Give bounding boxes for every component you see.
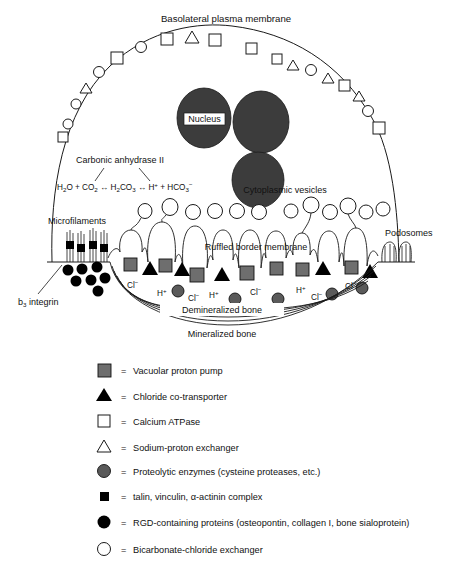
ion-label-h: H+ — [296, 284, 306, 295]
proteolytic-enzyme — [172, 285, 184, 297]
proton-pump — [124, 258, 137, 271]
legend-equals: = — [121, 366, 126, 376]
rgd-protein — [63, 265, 74, 276]
ion-label-cl: Cl− — [127, 279, 139, 290]
proton-pump — [240, 266, 254, 280]
fold-link — [142, 248, 148, 262]
proton-pump — [159, 259, 172, 272]
chloride-transporter — [142, 261, 158, 275]
fold-link — [233, 254, 239, 268]
stalk — [131, 218, 141, 230]
vesicle — [230, 204, 245, 219]
vesicle — [252, 205, 267, 220]
ion-label-cl: Cl− — [188, 292, 200, 303]
ion-labels: Cl− H+ Cl− H+ Cl− H+ Cl− Cl− — [127, 279, 357, 303]
vesicle — [208, 204, 223, 219]
legend-label-rgd-proteins: RGD-containing proteins (osteopontin, co… — [133, 518, 409, 528]
rgd-protein — [71, 276, 82, 287]
stalk — [348, 214, 356, 228]
marker-calcium-atpase — [161, 33, 173, 45]
marker-calcium-atpase — [209, 34, 221, 46]
legend-label-proteolytic-enzymes: Proteolytic enzymes (cysteine proteases,… — [133, 467, 320, 477]
chloride-transporter — [315, 261, 331, 275]
carbonic-anhydrase-equation: H2O + CO2 ↔ H2CO3 ↔ H+ + HCO3− — [57, 181, 193, 194]
demineralized-bone-label: Demineralized bone — [182, 305, 262, 315]
marker-calcium-atpase — [111, 52, 123, 64]
legend-equals: = — [121, 545, 126, 555]
legend-equals: = — [121, 467, 126, 477]
legend-label-chloride-co-transporter: Chloride co-transporter — [133, 392, 227, 402]
basolateral-membrane-outline — [52, 25, 399, 262]
fold-link — [339, 253, 344, 266]
integrin-leader — [38, 265, 62, 294]
vesicle — [376, 202, 390, 216]
vesicle-stalks — [131, 213, 356, 233]
legend-icon-vacuolar-proton-pump — [98, 364, 111, 377]
marker-calcium-atpase — [339, 80, 350, 91]
fold — [120, 230, 143, 252]
legend-icon-chloride-co-transporter — [96, 388, 112, 401]
talin-vinculin-complex — [100, 244, 108, 252]
legend-label-calcium-atpase: Calcium ATPase — [133, 417, 200, 427]
diagram-canvas: Basolateral plasma membrane — [0, 0, 453, 565]
legend-label-vacuolar-proton-pump: Vacuolar proton pump — [133, 366, 223, 376]
microfilaments-label: Microfilaments — [48, 216, 107, 226]
vesicle — [284, 204, 298, 218]
ion-label-h: H+ — [209, 289, 219, 300]
proton-pump — [190, 268, 204, 282]
marker-bicarbonate-exchanger — [306, 65, 317, 76]
marker-sodium-proton-exchanger — [185, 31, 199, 43]
chloride-transporter — [174, 262, 190, 276]
b3-integrin-label: b3 integrin — [18, 297, 59, 308]
chloride-co-transporters — [142, 261, 378, 281]
talin-vinculin-complex — [77, 244, 85, 252]
marker-calcium-atpase — [58, 132, 68, 142]
basolateral-membrane-label: Basolateral plasma membrane — [161, 13, 291, 24]
microfilaments-group — [66, 228, 108, 262]
legend-label-bicarbonate-chloride-exchanger: Bicarbonate-chloride exchanger — [133, 545, 263, 555]
fold — [344, 228, 367, 266]
legend-icon-sodium-proton-exchanger — [97, 440, 111, 452]
legend-group: = Vacuolar proton pump = Chloride co-tra… — [96, 364, 409, 556]
rgd-protein — [77, 264, 88, 275]
rgd-protein — [93, 286, 104, 297]
vesicle — [162, 199, 178, 216]
stalk — [302, 213, 311, 233]
marker-bicarbonate-exchanger — [136, 42, 147, 53]
rgd-protein — [100, 273, 111, 284]
marker-bicarbonate-exchanger — [363, 106, 374, 117]
enzyme-leader-right — [139, 168, 150, 181]
nucleus-lobe-right — [233, 91, 289, 153]
fold-link — [310, 250, 318, 262]
legend-icon-talin-vinculin-complex — [100, 492, 109, 501]
vesicle — [303, 197, 319, 213]
marker-bicarbonate-exchanger — [71, 99, 81, 109]
marker-calcium-atpase — [246, 43, 257, 54]
podosomes-label: Podosomes — [385, 228, 433, 238]
marker-bicarbonate-exchanger — [94, 67, 105, 78]
vesicle — [340, 198, 356, 214]
ion-label-h: H+ — [157, 287, 167, 298]
osteoclast-figure: Basolateral plasma membrane — [0, 0, 453, 565]
marker-sodium-proton-exchanger — [80, 83, 92, 93]
vesicle — [186, 205, 201, 220]
legend-equals: = — [121, 392, 126, 402]
podosomes-group — [382, 242, 411, 262]
vesicle — [138, 204, 152, 219]
legend-equals: = — [121, 417, 126, 427]
fold-link — [108, 249, 120, 258]
nucleus-label: Nucleus — [188, 114, 221, 124]
legend-icon-rgd-proteins — [98, 516, 111, 529]
ion-label-cl: Cl− — [311, 291, 323, 302]
proton-pump — [270, 262, 283, 275]
legend-equals: = — [121, 443, 126, 453]
cytoplasmic-vesicles-label: Cytoplasmic vesicles — [243, 185, 327, 195]
fold-link — [261, 253, 266, 268]
legend-label-talin-vinculin-complex: talin, vinculin, α-actinin complex — [133, 492, 263, 502]
fold — [183, 226, 208, 268]
talin-vinculin-complex — [89, 241, 97, 249]
marker-bicarbonate-exchanger — [63, 119, 73, 129]
legend-equals: = — [121, 518, 126, 528]
legend-icon-calcium-atpase — [98, 415, 110, 427]
stalk — [162, 215, 166, 222]
